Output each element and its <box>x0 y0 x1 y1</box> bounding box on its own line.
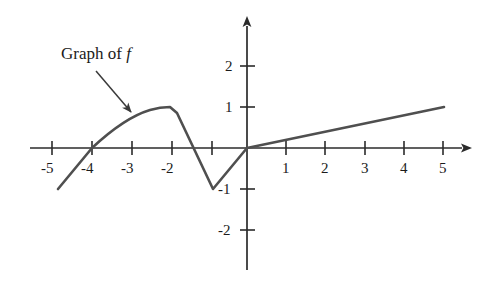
x-tick-label--3: -3 <box>121 161 134 176</box>
x-tick-label-5: 5 <box>439 161 447 176</box>
annotation-arrow <box>96 71 131 112</box>
x-tick-label--4: -4 <box>81 161 94 176</box>
y-tick-label-2: 2 <box>225 59 233 74</box>
graph-canvas <box>0 0 498 284</box>
x-tick-label--2: -2 <box>161 161 174 176</box>
graph-of-f-label: Graph of f <box>61 45 131 62</box>
function-graph-figure: Graph of f -5 -4 -3 -2 1 2 3 4 5 2 1 -1 … <box>0 0 498 284</box>
y-tick-label--1: -1 <box>218 182 231 197</box>
x-tick-label--5: -5 <box>41 161 54 176</box>
x-tick-label-1: 1 <box>282 161 290 176</box>
x-tick-label-4: 4 <box>400 161 408 176</box>
x-tick-label-2: 2 <box>321 161 329 176</box>
y-tick-label--2: -2 <box>218 223 231 238</box>
annotation-text-prefix: Graph of <box>61 44 126 63</box>
annotation-symbol-f: f <box>126 44 131 63</box>
x-tick-label-3: 3 <box>361 161 369 176</box>
y-tick-label-1: 1 <box>225 100 233 115</box>
